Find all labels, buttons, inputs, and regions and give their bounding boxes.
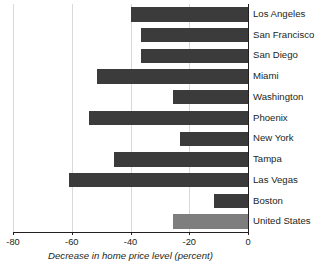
- x-tick-mark--20: [189, 232, 190, 235]
- category-label-san-diego: San Diego: [253, 45, 298, 66]
- category-label-washington: Washington: [253, 87, 303, 108]
- category-label-las-vegas: Las Vegas: [253, 170, 298, 191]
- x-tick-mark--40: [131, 232, 132, 235]
- bar-series: [13, 4, 248, 232]
- bar-row: [13, 128, 248, 149]
- x-tick-label--60: -60: [65, 237, 78, 247]
- category-label-phoenix: Phoenix: [253, 108, 288, 129]
- x-axis-title: Decrease in home price level (percent): [13, 250, 248, 261]
- bar-row: [13, 211, 248, 232]
- category-label-new-york: New York: [253, 128, 294, 149]
- bar-row: [13, 87, 248, 108]
- bar-row: [13, 4, 248, 25]
- x-tick-mark-0: [248, 232, 249, 235]
- x-tick-label--40: -40: [124, 237, 137, 247]
- bar-phoenix[interactable]: [89, 111, 248, 125]
- x-tick-mark--60: [72, 232, 73, 235]
- category-axis-labels: Los AngelesSan FranciscoSan DiegoMiamiWa…: [253, 4, 329, 232]
- bar-row: [13, 170, 248, 191]
- x-tick-label--20: -20: [183, 237, 196, 247]
- bar-boston[interactable]: [214, 194, 248, 208]
- bar-washington[interactable]: [173, 90, 248, 104]
- bar-new-york[interactable]: [180, 132, 248, 146]
- bar-san-francisco[interactable]: [141, 28, 248, 42]
- bar-san-diego[interactable]: [141, 49, 248, 63]
- bar-tampa[interactable]: [114, 152, 248, 166]
- x-tick-label-0: 0: [245, 237, 250, 247]
- bar-united-states[interactable]: [173, 214, 248, 228]
- category-label-united-states: United States: [253, 211, 311, 232]
- bar-chart: Los AngelesSan FranciscoSan DiegoMiamiWa…: [0, 0, 329, 267]
- bar-row: [13, 108, 248, 129]
- category-label-los-angeles: Los Angeles: [253, 4, 305, 25]
- category-label-miami: Miami: [253, 66, 279, 87]
- plot-area: [13, 4, 248, 232]
- category-label-boston: Boston: [253, 191, 283, 212]
- category-label-san-francisco: San Francisco: [253, 25, 314, 46]
- bar-row: [13, 66, 248, 87]
- bar-miami[interactable]: [97, 69, 248, 83]
- bar-row: [13, 25, 248, 46]
- bar-los-angeles[interactable]: [131, 7, 249, 21]
- bar-row: [13, 149, 248, 170]
- bar-row: [13, 45, 248, 66]
- x-tick-label--80: -80: [6, 237, 19, 247]
- bar-row: [13, 191, 248, 212]
- zero-axis-line: [248, 4, 249, 232]
- bar-las-vegas[interactable]: [69, 173, 248, 187]
- x-tick-mark--80: [13, 232, 14, 235]
- category-label-tampa: Tampa: [253, 149, 282, 170]
